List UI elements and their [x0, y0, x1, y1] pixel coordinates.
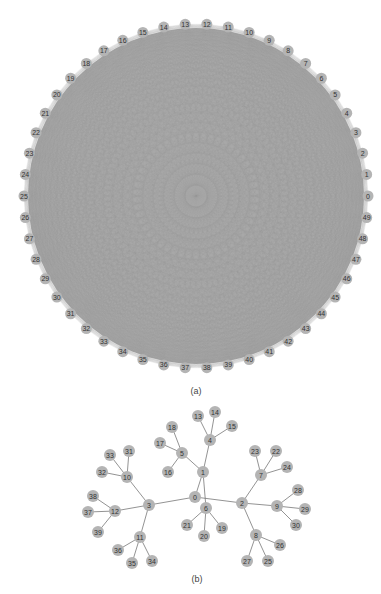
- svg-text:4: 4: [208, 437, 212, 444]
- node: 36: [158, 359, 169, 370]
- svg-text:36: 36: [160, 361, 168, 368]
- tree-node: 9: [271, 500, 283, 512]
- node: 5: [330, 89, 341, 100]
- node: 11: [223, 22, 234, 33]
- tree-node: 25: [262, 555, 274, 567]
- node: 23: [24, 148, 35, 159]
- svg-text:44: 44: [317, 310, 325, 317]
- svg-text:9: 9: [267, 37, 271, 44]
- caption-a: (a): [191, 386, 202, 396]
- svg-text:16: 16: [119, 37, 127, 44]
- tree-node: 30: [290, 519, 302, 531]
- svg-text:28: 28: [294, 487, 302, 494]
- node: 7: [300, 58, 311, 69]
- tree-node: 29: [299, 503, 311, 515]
- svg-text:30: 30: [292, 522, 300, 529]
- tree-node: 34: [146, 555, 158, 567]
- node: 29: [40, 273, 51, 284]
- svg-text:48: 48: [359, 235, 367, 242]
- svg-text:30: 30: [53, 294, 61, 301]
- node: 15: [137, 27, 148, 38]
- svg-text:11: 11: [225, 24, 232, 31]
- svg-text:34: 34: [119, 348, 127, 355]
- node: 40: [244, 354, 255, 365]
- svg-text:25: 25: [20, 193, 28, 200]
- tree-node: 36: [112, 544, 124, 556]
- svg-text:45: 45: [331, 294, 339, 301]
- tree-graph-figure-b: 0123456789101112131415161718192021222324…: [82, 406, 311, 569]
- tree-node: 15: [226, 420, 238, 432]
- tree-node: 21: [181, 519, 193, 531]
- svg-text:19: 19: [67, 75, 75, 82]
- node: 41: [264, 346, 275, 357]
- tree-node: 19: [216, 522, 228, 534]
- svg-text:36: 36: [114, 547, 122, 554]
- node: 9: [264, 35, 275, 46]
- node: 22: [31, 127, 42, 138]
- node: 18: [81, 58, 92, 69]
- tree-node: 11: [134, 531, 146, 543]
- svg-text:37: 37: [84, 509, 92, 516]
- node: 45: [330, 292, 341, 303]
- tree-node: 23: [249, 445, 261, 457]
- node: 0: [363, 191, 374, 202]
- node: 16: [117, 35, 128, 46]
- svg-text:25: 25: [264, 558, 272, 565]
- tree-node: 20: [198, 530, 210, 542]
- svg-text:12: 12: [203, 21, 211, 28]
- tree-node: 1: [197, 466, 209, 478]
- svg-text:33: 33: [100, 338, 108, 345]
- node: 26: [20, 212, 31, 223]
- node: 28: [31, 254, 42, 265]
- node: 32: [81, 323, 92, 334]
- svg-text:12: 12: [111, 508, 119, 515]
- svg-text:0: 0: [193, 494, 197, 501]
- svg-text:13: 13: [194, 413, 202, 420]
- tree-node: 16: [162, 466, 174, 478]
- svg-text:15: 15: [228, 423, 236, 430]
- tree-node: 22: [270, 445, 282, 457]
- tree-node: 17: [154, 437, 166, 449]
- svg-text:37: 37: [181, 364, 189, 371]
- svg-text:22: 22: [272, 448, 280, 455]
- svg-text:2: 2: [240, 500, 244, 507]
- svg-text:13: 13: [181, 21, 189, 28]
- tree-node: 14: [209, 406, 221, 418]
- svg-text:20: 20: [53, 91, 61, 98]
- caption-b: (b): [192, 574, 203, 584]
- node: 27: [24, 233, 35, 244]
- tree-node: 32: [96, 466, 108, 478]
- svg-text:10: 10: [123, 474, 131, 481]
- svg-text:26: 26: [21, 214, 29, 221]
- svg-text:2: 2: [361, 150, 365, 157]
- node: 2: [357, 148, 368, 159]
- tree-node: 38: [87, 490, 99, 502]
- node: 19: [65, 73, 76, 84]
- svg-text:41: 41: [265, 348, 273, 355]
- svg-text:19: 19: [218, 525, 226, 532]
- tree-node: 5: [176, 447, 188, 459]
- tree-node: 26: [274, 539, 286, 551]
- node: 34: [117, 346, 128, 357]
- svg-text:15: 15: [139, 29, 147, 36]
- svg-text:32: 32: [82, 325, 90, 332]
- svg-text:29: 29: [301, 506, 309, 513]
- svg-text:49: 49: [363, 214, 371, 221]
- svg-text:17: 17: [100, 47, 108, 54]
- node: 13: [180, 19, 191, 30]
- tree-node: 4: [204, 434, 216, 446]
- node: 49: [361, 212, 372, 223]
- svg-text:8: 8: [254, 532, 258, 539]
- node: 39: [223, 359, 234, 370]
- tree-node: 27: [241, 555, 253, 567]
- tree-node: 7: [255, 469, 267, 481]
- node: 38: [201, 362, 212, 373]
- node: 8: [283, 45, 294, 56]
- svg-text:38: 38: [89, 493, 97, 500]
- node: 35: [137, 354, 148, 365]
- tree-node: 10: [121, 471, 133, 483]
- node: 33: [98, 336, 109, 347]
- tree-node: 6: [200, 502, 212, 514]
- figure-canvas: 0123456789101112131415161718192021222324…: [0, 0, 381, 594]
- svg-text:40: 40: [245, 356, 253, 363]
